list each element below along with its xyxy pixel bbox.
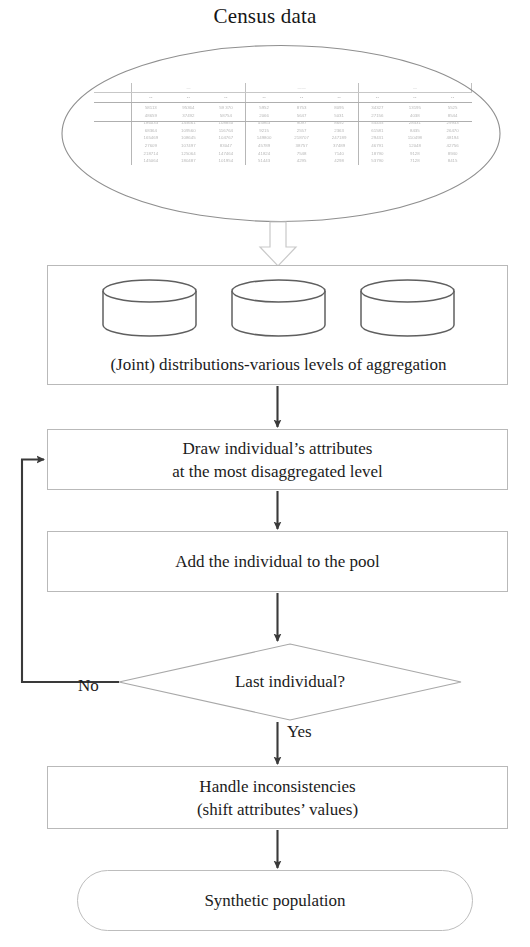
table-cell: 26470 bbox=[434, 127, 472, 135]
table-row-label bbox=[94, 150, 132, 158]
table-row: 6836410956011676492152557236361581843526… bbox=[94, 127, 472, 135]
table-header-cell: • • bbox=[207, 93, 245, 103]
table-header-cell: • • bbox=[358, 93, 396, 103]
table-group-header-row: — — — — bbox=[94, 83, 472, 93]
table-cell: 8692 bbox=[321, 119, 359, 127]
table-cell: 147464 bbox=[207, 150, 245, 158]
table-row: 1450641804871019545144342954298537907128… bbox=[94, 157, 472, 165]
table-cell: 46791 bbox=[358, 142, 396, 150]
table-cell: 27156 bbox=[358, 112, 396, 120]
table-cell: 108850 bbox=[207, 119, 245, 127]
table-cell: 48194 bbox=[434, 134, 472, 142]
node-joint-distributions-label: (Joint) distributions-various levels of … bbox=[48, 353, 509, 376]
census-data-table: — — — — • • • • • • • • • • • • • • • • bbox=[94, 83, 472, 193]
table-row-label bbox=[94, 127, 132, 135]
table: — — — — • • • • • • • • • • • • • • • • bbox=[94, 83, 472, 165]
table-cell: 7548 bbox=[283, 150, 321, 158]
table-cell: 37489 bbox=[321, 142, 359, 150]
table-corner-cell bbox=[94, 83, 132, 93]
table-header-cell: • • bbox=[245, 93, 283, 103]
table-row-label bbox=[94, 157, 132, 165]
node-draw-attributes[interactable]: Draw individual’s attributes at the most… bbox=[47, 429, 508, 490]
table-cell: 48659 bbox=[132, 112, 170, 120]
table-cell: 8544 bbox=[434, 112, 472, 120]
node-last-individual-label: Last individual? bbox=[118, 643, 462, 721]
node-add-individual-label: Add the individual to the pool bbox=[175, 550, 379, 573]
node-synthetic-population-label: Synthetic population bbox=[204, 891, 345, 911]
table-cell: 186033 bbox=[132, 119, 170, 127]
table-cell: 4298 bbox=[321, 157, 359, 165]
table-cell: 9215 bbox=[245, 127, 283, 135]
branch-label-no: No bbox=[78, 676, 99, 696]
table-row: 1860331456611088504586390978692554352853… bbox=[94, 119, 472, 127]
table-row: 581139536459 370595287538095343271319555… bbox=[94, 103, 472, 112]
table-cell: 109560 bbox=[170, 127, 208, 135]
table-cell: 9097 bbox=[283, 119, 321, 127]
table-header-cell bbox=[94, 93, 132, 103]
node-handle-inconsistencies-line1: Handle inconsistencies bbox=[199, 777, 355, 796]
table-cell: 8435 bbox=[396, 127, 434, 135]
table-cell: 9128 bbox=[396, 150, 434, 158]
node-synthetic-population[interactable]: Synthetic population bbox=[77, 870, 473, 931]
table-cell: 101954 bbox=[207, 157, 245, 165]
table-cell: 116764 bbox=[207, 127, 245, 135]
table-column-header-row: • • • • • • • • • • • • • • • • • • bbox=[94, 93, 472, 103]
table-row: 2760910749783047457893875737489467911204… bbox=[94, 142, 472, 150]
table-cell: 27609 bbox=[132, 142, 170, 150]
table-row: 2187141250641474644182475487140187909128… bbox=[94, 150, 472, 158]
table-cell: 5952 bbox=[245, 103, 283, 112]
node-joint-distributions[interactable]: (Joint) distributions-various levels of … bbox=[47, 265, 508, 385]
table-header-cell: • • bbox=[434, 93, 472, 103]
table-group-header: — — bbox=[245, 83, 358, 93]
table-header-cell: • • bbox=[283, 93, 321, 103]
database-cylinder-icon bbox=[101, 278, 198, 340]
table-cell: 165469 bbox=[132, 134, 170, 142]
table-cell: 8940 bbox=[434, 150, 472, 158]
table-cell: 59 370 bbox=[207, 103, 245, 112]
table-cell: 68364 bbox=[132, 127, 170, 135]
table-cell: 5031 bbox=[321, 112, 359, 120]
node-handle-inconsistencies-label: Handle inconsistencies (shift attributes… bbox=[197, 775, 358, 821]
table-row: 4865937492587542066564750312715640388544 bbox=[94, 112, 472, 120]
table-cell: 45789 bbox=[245, 142, 283, 150]
node-handle-inconsistencies[interactable]: Handle inconsistencies (shift attributes… bbox=[47, 766, 508, 829]
table-cell: 29933 bbox=[434, 119, 472, 127]
table-cell: 38757 bbox=[283, 142, 321, 150]
table-cell: 8095 bbox=[321, 103, 359, 112]
table-cell: 7128 bbox=[396, 157, 434, 165]
table-cell: 58113 bbox=[132, 103, 170, 112]
table-cell: 108645 bbox=[170, 134, 208, 142]
table-row-label bbox=[94, 112, 132, 120]
table-cell: 2066 bbox=[245, 112, 283, 120]
table-group-header: — bbox=[358, 83, 471, 93]
table-header-cell: • • bbox=[321, 93, 359, 103]
table-cell: 28531 bbox=[396, 119, 434, 127]
table-cell: 53790 bbox=[358, 157, 396, 165]
branch-label-yes: Yes bbox=[287, 722, 312, 742]
table-cell: 5647 bbox=[283, 112, 321, 120]
table-cell: 61581 bbox=[358, 127, 396, 135]
table-cell: 145661 bbox=[170, 119, 208, 127]
table-header-cell: • • bbox=[132, 93, 170, 103]
table-cell: 58754 bbox=[207, 112, 245, 120]
node-add-individual[interactable]: Add the individual to the pool bbox=[47, 531, 508, 592]
table-cell: 247189 bbox=[321, 134, 359, 142]
table-cell: 45863 bbox=[245, 119, 283, 127]
table-cell: 8753 bbox=[283, 103, 321, 112]
table-cell: 218714 bbox=[132, 150, 170, 158]
database-cylinder-icon bbox=[359, 278, 456, 340]
table-cell: 34327 bbox=[358, 103, 396, 112]
table-cell: 145064 bbox=[132, 157, 170, 165]
table-cell: 4295 bbox=[283, 157, 321, 165]
node-last-individual-decision[interactable]: Last individual? bbox=[118, 643, 462, 721]
table-cell: 29431 bbox=[358, 134, 396, 142]
table-cell: 125064 bbox=[170, 150, 208, 158]
node-handle-inconsistencies-line2: (shift attributes’ values) bbox=[197, 800, 358, 819]
node-draw-attributes-line2: at the most disaggregated level bbox=[172, 462, 383, 481]
node-draw-attributes-label: Draw individual’s attributes at the most… bbox=[172, 437, 383, 483]
table-cell: 55435 bbox=[358, 119, 396, 127]
table-row-label bbox=[94, 134, 132, 142]
table-cell: 180487 bbox=[170, 157, 208, 165]
table-row-label bbox=[94, 119, 132, 127]
table-cell: 51443 bbox=[245, 157, 283, 165]
